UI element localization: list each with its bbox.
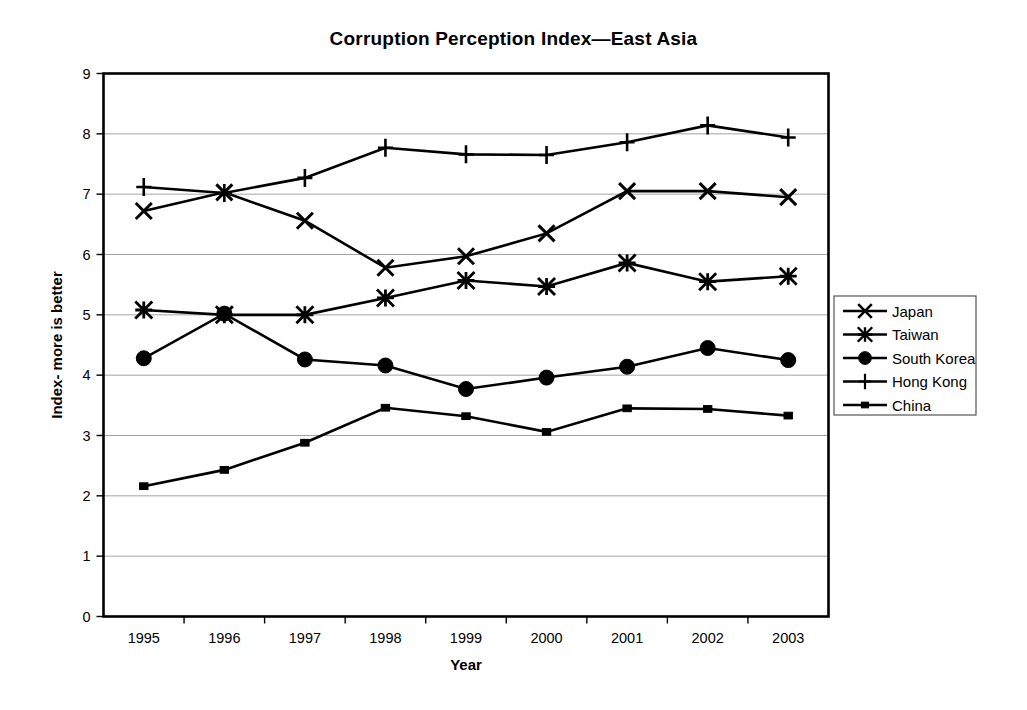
x-tick-label: 1995: [128, 630, 160, 646]
legend-label: China: [892, 397, 932, 414]
data-point-marker: [136, 178, 151, 196]
data-point-marker: [220, 467, 228, 474]
data-point-marker: [136, 351, 151, 366]
data-point-marker: [377, 289, 394, 306]
legend-entry-south-korea[interactable]: South Korea: [843, 350, 976, 367]
chart-container: Corruption Perception Index—East Asia 01…: [0, 0, 1027, 710]
x-tick-label: 1999: [450, 630, 482, 646]
y-tick-label: 6: [82, 247, 90, 263]
data-point-marker: [784, 412, 792, 419]
legend-label: Taiwan: [892, 326, 939, 343]
data-point-marker: [699, 273, 716, 290]
data-point-marker: [459, 145, 474, 163]
data-point-marker: [859, 352, 872, 365]
data-point-marker: [458, 272, 475, 289]
x-tick-label: 2002: [692, 630, 724, 646]
data-point-marker: [538, 278, 555, 295]
gridlines-group: [104, 134, 829, 556]
data-point-marker: [780, 268, 797, 285]
data-point-marker: [861, 402, 868, 408]
data-point-marker: [858, 327, 872, 341]
data-point-marker: [781, 353, 796, 368]
y-tick-label: 7: [82, 186, 90, 202]
data-point-marker: [781, 128, 796, 146]
y-tick-label: 5: [82, 307, 90, 323]
y-tick-label: 9: [82, 66, 90, 82]
data-point-marker: [378, 358, 393, 373]
data-point-marker: [542, 429, 550, 436]
legend-label: South Korea: [892, 350, 976, 367]
data-point-marker: [703, 406, 711, 413]
legend-label: Hong Kong: [892, 373, 967, 390]
y-axis-tick-labels: 0123456789: [82, 66, 90, 625]
series-china: [140, 404, 793, 489]
data-point-marker: [297, 352, 312, 367]
x-tick-label: 2001: [611, 630, 643, 646]
data-point-marker: [459, 382, 474, 397]
chart-plot-svg: 0123456789 19951996199719981999200020012…: [0, 0, 1027, 710]
chart-legend: JapanTaiwanSouth KoreaHong KongChina: [834, 296, 976, 415]
series-taiwan: [135, 254, 796, 323]
series-japan: [136, 183, 796, 276]
data-series-group: [135, 116, 796, 489]
series-south-korea: [136, 306, 795, 396]
data-point-marker: [297, 169, 312, 187]
data-point-marker: [700, 341, 715, 356]
x-tick-label: 1998: [369, 630, 401, 646]
data-point-marker: [381, 404, 389, 411]
data-point-marker: [301, 439, 309, 446]
y-tick-label: 3: [82, 428, 90, 444]
y-tick-label: 4: [82, 367, 90, 383]
data-point-marker: [620, 133, 635, 151]
data-point-marker: [462, 413, 470, 420]
data-point-marker: [539, 225, 555, 241]
data-point-marker: [378, 139, 393, 157]
data-point-marker: [620, 359, 635, 374]
y-tick-label: 1: [82, 548, 90, 564]
data-point-marker: [140, 483, 148, 490]
x-tick-label: 2003: [772, 630, 804, 646]
y-tick-label: 8: [82, 126, 90, 142]
x-tick-label: 1997: [289, 630, 321, 646]
series-line: [144, 314, 788, 389]
x-axis-tick-labels: 199519961997199819992000200120022003: [128, 630, 805, 646]
y-tick-label: 2: [82, 488, 90, 504]
x-axis-title: Year: [450, 656, 482, 673]
y-tick-label: 0: [82, 609, 90, 625]
data-point-marker: [135, 302, 152, 319]
data-point-marker: [623, 405, 631, 412]
data-point-marker: [217, 306, 232, 321]
data-point-marker: [619, 254, 636, 271]
y-axis-title: Index- more is better: [48, 271, 65, 419]
data-point-marker: [539, 146, 554, 164]
x-tick-label: 1996: [208, 630, 240, 646]
x-tick-label: 2000: [530, 630, 562, 646]
series-hong-kong: [136, 116, 795, 202]
data-point-marker: [539, 370, 554, 385]
data-point-marker: [296, 306, 313, 323]
data-point-marker: [700, 116, 715, 134]
data-point-marker: [297, 213, 313, 229]
legend-label: Japan: [892, 303, 933, 320]
